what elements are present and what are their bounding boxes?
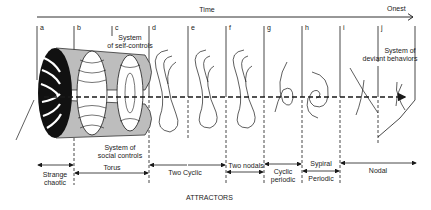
range-label-spiral-periodic-2: Periodic — [308, 175, 333, 183]
social-controls-label-line2: social controls — [98, 152, 142, 160]
range-label-spiral-periodic-1: Sypiral — [310, 160, 331, 168]
stage-letter-c: c — [115, 24, 119, 32]
stage-letter-b: b — [77, 24, 81, 32]
range-label-two-nodals: Two nodals — [228, 162, 263, 170]
stage-letter-e: e — [191, 24, 195, 32]
two-nodal-attractor — [233, 50, 255, 128]
deviant-label-line2: deviant behaviors — [363, 55, 418, 63]
stage-letter-j: j — [381, 24, 383, 32]
spiral-periodic-attractor — [307, 72, 328, 118]
range-label-nodal: Nodal — [369, 167, 387, 175]
range-label-cyclic-periodic-1: Cyclic — [274, 168, 293, 176]
cyclic-periodic-attractor — [275, 62, 293, 112]
range-arrows — [38, 163, 416, 173]
stage-letter-i: i — [343, 24, 345, 32]
stage-letter-a: a — [40, 24, 44, 32]
deviant-label-line1: System of — [384, 47, 415, 55]
attractors-diagram: Time Onest a b c d e f g h i j System of… — [0, 0, 431, 210]
self-controls-label-line2: of self-controls — [107, 42, 153, 50]
stage-letter-g: g — [267, 24, 271, 32]
range-label-two-cyclic: Two Cyclic — [168, 169, 201, 177]
social-controls-label-line1: System of — [104, 144, 135, 152]
stage-letter-d: d — [152, 24, 156, 32]
stage-letter-f: f — [229, 24, 231, 32]
torus-attractor — [16, 48, 152, 140]
range-label-cyclic-periodic-2: periodic — [271, 176, 296, 184]
time-label: Time — [199, 6, 214, 14]
onset-label: Onest — [387, 5, 406, 13]
two-cyclic-attractors — [155, 50, 217, 132]
self-controls-label-line1: System — [118, 34, 141, 42]
diagram-caption: ATTRACTORS — [186, 194, 233, 202]
range-label-torus: Torus — [103, 164, 120, 172]
nodal-attractors — [350, 68, 405, 115]
range-label-strange-chaotic-1: Strange — [43, 171, 68, 179]
range-label-strange-chaotic-2: chaotic — [44, 179, 66, 187]
stage-letter-h: h — [305, 24, 309, 32]
